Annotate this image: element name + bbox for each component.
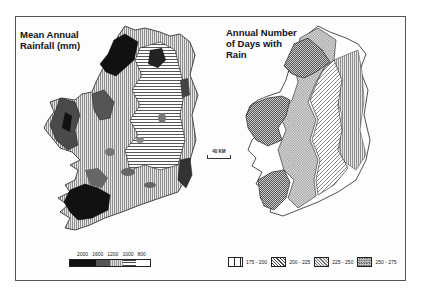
legend-item-175-200: 175 - 200 <box>228 257 267 267</box>
legend-swatch-2000 <box>70 260 96 266</box>
vertical-lines-swatch-icon <box>228 257 243 267</box>
rain-days-map <box>238 20 403 250</box>
rain-days-legend: 175 - 200 200 - 225 225 - 250 250 - 275 <box>228 257 397 267</box>
rainfall-legend-bar <box>69 259 151 267</box>
legend-swatch-800 <box>136 260 150 266</box>
light-crosshatch-swatch-icon <box>314 257 329 267</box>
legend-swatch-1200 <box>110 260 123 266</box>
scale-bar-line <box>207 155 231 159</box>
legend-item-200-225: 200 - 225 <box>271 257 310 267</box>
legend-swatch-1000 <box>123 260 136 266</box>
legend-item-250-275: 250 - 275 <box>357 257 396 267</box>
dense-crosshatch-swatch-icon <box>357 257 372 267</box>
rainfall-legend: 2000 1600 1200 1000 800 <box>69 251 151 267</box>
diagonal-lines-swatch-icon <box>271 257 286 267</box>
scale-bar: 40 KM <box>207 149 231 159</box>
rainfall-legend-ticks: 2000 1600 1200 1000 800 <box>77 251 151 257</box>
rainfall-map <box>30 20 205 250</box>
legend-item-225-250: 225 - 250 <box>314 257 353 267</box>
legend-swatch-1600 <box>96 260 110 266</box>
